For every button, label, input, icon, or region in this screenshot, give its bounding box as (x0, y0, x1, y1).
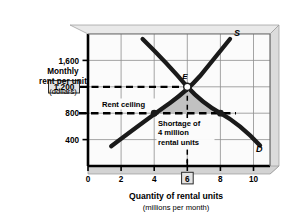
xtick-label-4: 4 (152, 175, 157, 184)
xtick-label-6-highlight: 6 (182, 172, 194, 184)
ytick-label-1600: 1,600 (59, 57, 80, 66)
y-axis-title-line1: Monthly (47, 67, 79, 76)
shortage-annotation-line1: Shortage of (158, 119, 201, 128)
xtick-label-6: 6 (185, 175, 190, 184)
frame-right-bevel (270, 25, 279, 174)
xtick-label-8: 8 (218, 175, 223, 184)
quantity-demanded-point (217, 110, 224, 117)
x-axis-subtitle: (millions per month) (143, 203, 210, 212)
y-axis-title-line3: (dollars) (49, 87, 77, 96)
ytick-label-800: 800 (65, 109, 79, 118)
ytick-label-400: 400 (65, 136, 79, 145)
x-axis-title: Quantity of rental units (129, 191, 223, 201)
xtick-label-10: 10 (249, 175, 259, 184)
xtick-label-0: 0 (86, 175, 91, 184)
supply-curve-label: S (234, 28, 240, 38)
shortage-annotation-line3: rental units (158, 138, 199, 147)
frame-top-bevel (70, 25, 279, 34)
rent-ceiling-label: Rent ceiling (102, 100, 145, 109)
y-axis-title-line2: rent per unit (39, 77, 87, 86)
equilibrium-label: E (182, 72, 188, 81)
shortage-annotation-line2: 4 million (158, 128, 189, 137)
xtick-label-2: 2 (119, 175, 124, 184)
equilibrium-point (184, 83, 191, 90)
quantity-supplied-point (151, 110, 158, 117)
supply-demand-chart: 400 800 1,600 1,200 0 2 4 8 10 6 E S D R… (0, 0, 288, 218)
demand-curve-label: D (256, 144, 263, 154)
chart-figure: 400 800 1,600 1,200 0 2 4 8 10 6 E S D R… (0, 0, 288, 218)
